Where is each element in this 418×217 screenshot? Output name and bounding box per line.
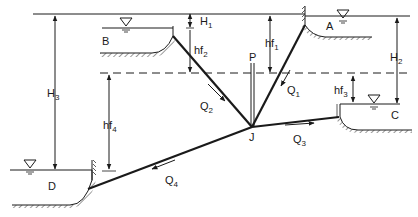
reservoir-c-label: C <box>391 110 399 121</box>
pump-label: P <box>249 52 256 63</box>
h2-label: H2 <box>390 52 402 66</box>
hf4-label: hf4 <box>103 120 117 134</box>
hf1-label: hf1 <box>265 38 279 52</box>
hf3-label: hf3 <box>334 85 348 99</box>
pipe-3 <box>252 117 339 127</box>
reservoir-c <box>336 95 412 133</box>
q3-label: Q3 <box>293 134 306 148</box>
water-level-triangle-icon <box>24 160 36 168</box>
h3-label: H3 <box>47 88 59 102</box>
h1-label: H1 <box>200 16 212 30</box>
water-level-triangle-icon <box>120 18 132 26</box>
q4-label: Q4 <box>165 175 178 189</box>
q2-label: Q2 <box>200 101 213 115</box>
junction-label: J <box>249 132 255 143</box>
q1-label: Q1 <box>287 85 300 99</box>
reservoir-a <box>302 6 372 40</box>
hf2-label: hf2 <box>194 45 208 59</box>
reservoir-network-diagram: A B C D J P Q1 Q2 Q3 Q4 H1 H2 H3 hf1 hf2… <box>0 0 418 217</box>
water-level-triangle-icon <box>337 10 349 18</box>
reservoir-b-label: B <box>102 36 109 47</box>
water-level-triangle-icon <box>368 95 380 103</box>
reservoir-d-label: D <box>48 181 56 192</box>
reservoir-a-label: A <box>326 21 333 32</box>
reservoir-b <box>100 18 176 57</box>
